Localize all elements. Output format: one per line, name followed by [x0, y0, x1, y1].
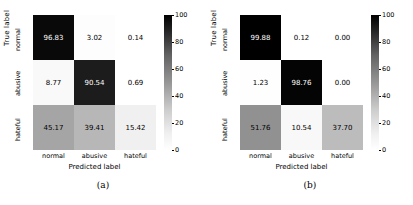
cell-value: 15.42: [125, 124, 145, 132]
cell-value: 0.14: [128, 34, 144, 42]
cell-value: 0.12: [294, 34, 310, 42]
x-tick-hateful-b: hateful: [322, 152, 363, 160]
cell-value: 0.00: [335, 34, 351, 42]
cell-value: 3.02: [87, 34, 103, 42]
panel-b: True label normal abusive hateful 99.880…: [207, 0, 413, 205]
colorbar-tick-label: 80: [175, 38, 183, 46]
matrix-cell: 0.00: [322, 60, 363, 105]
cell-value: 10.54: [291, 124, 311, 132]
matrix-cell: 96.83: [33, 15, 74, 60]
x-tick-hateful-a: hateful: [115, 152, 156, 160]
colorbar-tick-label: 20: [382, 119, 390, 127]
cell-value: 8.77: [46, 79, 62, 87]
cell-value: 39.41: [84, 124, 104, 132]
x-axis-label-b: Predicted label: [240, 163, 363, 171]
matrix-cell: 51.76: [240, 105, 281, 150]
colorbar-tick-mark: [172, 15, 174, 16]
colorbar-tick-mark: [172, 96, 174, 97]
colorbar-tick-label: 20: [175, 119, 183, 127]
matrix-cell: 15.42: [115, 105, 156, 150]
cell-value: 98.76: [291, 79, 311, 87]
y-tick-hateful-a: hateful: [14, 118, 22, 141]
matrix-cell: 3.02: [74, 15, 115, 60]
matrix-cell: 98.76: [281, 60, 322, 105]
matrix-cell: 99.88: [240, 15, 281, 60]
x-tick-normal-b: normal: [240, 152, 281, 160]
matrix-cell: 45.17: [33, 105, 74, 150]
colorbar-tick-label: 60: [382, 65, 390, 73]
colorbar-b: [371, 15, 379, 150]
y-tick-normal-b: normal: [221, 28, 229, 51]
y-axis-label-b: True label: [210, 10, 218, 46]
cell-value: 0.00: [335, 79, 351, 87]
cell-value: 99.88: [250, 34, 270, 42]
panel-a: True label normal abusive hateful 96.833…: [0, 0, 206, 205]
panel-caption-b: (b): [207, 180, 413, 190]
matrix-cell: 0.14: [115, 15, 156, 60]
cell-value: 37.70: [332, 124, 352, 132]
matrix-cell: 37.70: [322, 105, 363, 150]
cell-value: 1.23: [253, 79, 269, 87]
matrix-cell: 0.12: [281, 15, 322, 60]
colorbar-tick-label: 80: [382, 38, 390, 46]
colorbar-tick-mark: [379, 15, 381, 16]
matrix-a: 96.833.020.148.7790.540.6945.1739.4115.4…: [33, 15, 156, 150]
matrix-cell: 39.41: [74, 105, 115, 150]
colorbar-tick-mark: [172, 69, 174, 70]
colorbar-tick-mark: [172, 150, 174, 151]
y-tick-abusive-a: abusive: [14, 70, 22, 95]
colorbar-tick-label: 60: [175, 65, 183, 73]
colorbar-a: [164, 15, 172, 150]
matrix-cell: 0.00: [322, 15, 363, 60]
confusion-matrix-figure: True label normal abusive hateful 96.833…: [0, 0, 413, 205]
cell-value: 90.54: [84, 79, 104, 87]
y-tick-abusive-b: abusive: [221, 70, 229, 95]
matrix-cell: 90.54: [74, 60, 115, 105]
colorbar-tick-label: 0: [382, 146, 386, 154]
cell-value: 0.69: [128, 79, 144, 87]
matrix-cell: 8.77: [33, 60, 74, 105]
colorbar-tick-mark: [379, 69, 381, 70]
panel-caption-a: (a): [0, 180, 206, 190]
matrix-cell: 1.23: [240, 60, 281, 105]
colorbar-tick-label: 100: [175, 11, 187, 19]
matrix-cell: 0.69: [115, 60, 156, 105]
matrix-cell: 10.54: [281, 105, 322, 150]
colorbar-tick-label: 40: [175, 92, 183, 100]
colorbar-tick-mark: [379, 123, 381, 124]
y-tick-hateful-b: hateful: [221, 118, 229, 141]
cell-value: 96.83: [43, 34, 63, 42]
colorbar-tick-mark: [172, 42, 174, 43]
x-axis-label-a: Predicted label: [33, 163, 156, 171]
colorbar-tick-mark: [379, 150, 381, 151]
y-axis-label-a: True label: [3, 10, 11, 46]
colorbar-tick-label: 0: [175, 146, 179, 154]
cell-value: 45.17: [43, 124, 63, 132]
colorbar-tick-label: 40: [382, 92, 390, 100]
x-tick-abusive-a: abusive: [74, 152, 115, 160]
cell-value: 51.76: [250, 124, 270, 132]
matrix-b: 99.880.120.001.2398.760.0051.7610.5437.7…: [240, 15, 363, 150]
x-tick-abusive-b: abusive: [281, 152, 322, 160]
x-tick-normal-a: normal: [33, 152, 74, 160]
colorbar-tick-mark: [379, 96, 381, 97]
colorbar-tick-mark: [172, 123, 174, 124]
y-tick-normal-a: normal: [14, 28, 22, 51]
colorbar-tick-mark: [379, 42, 381, 43]
colorbar-tick-label: 100: [382, 11, 394, 19]
